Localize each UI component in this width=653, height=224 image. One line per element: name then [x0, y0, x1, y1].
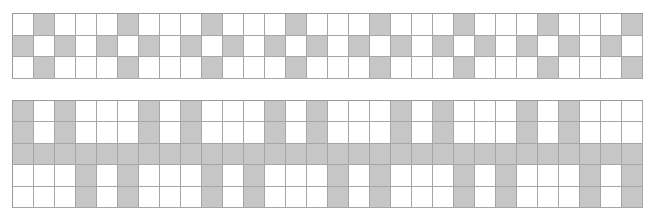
filled-cell: [34, 14, 55, 36]
empty-cell: [76, 57, 97, 79]
empty-cell: [139, 14, 160, 36]
empty-cell: [370, 36, 391, 58]
empty-cell: [307, 187, 328, 208]
empty-cell: [244, 57, 265, 79]
filled-cell: [433, 101, 454, 122]
empty-cell: [223, 101, 244, 122]
empty-cell: [391, 187, 412, 208]
filled-cell: [370, 57, 391, 79]
filled-cell: [433, 36, 454, 58]
empty-cell: [496, 101, 517, 122]
filled-cell: [475, 144, 496, 165]
empty-cell: [412, 36, 433, 58]
filled-cell: [622, 144, 643, 165]
filled-cell: [202, 57, 223, 79]
empty-cell: [118, 36, 139, 58]
empty-cell: [349, 57, 370, 79]
empty-cell: [475, 122, 496, 143]
empty-cell: [13, 187, 34, 208]
empty-cell: [517, 14, 538, 36]
empty-cell: [622, 122, 643, 143]
filled-cell: [559, 101, 580, 122]
filled-cell: [307, 122, 328, 143]
empty-cell: [244, 122, 265, 143]
filled-cell: [559, 122, 580, 143]
empty-cell: [286, 187, 307, 208]
empty-cell: [34, 101, 55, 122]
filled-cell: [286, 144, 307, 165]
filled-cell: [370, 144, 391, 165]
filled-cell: [55, 122, 76, 143]
weave-grid-bottom: [12, 100, 643, 208]
empty-cell: [496, 14, 517, 36]
empty-cell: [118, 101, 139, 122]
empty-cell: [580, 36, 601, 58]
empty-cell: [202, 101, 223, 122]
empty-cell: [328, 14, 349, 36]
filled-cell: [265, 144, 286, 165]
empty-cell: [223, 165, 244, 186]
filled-cell: [286, 57, 307, 79]
filled-cell: [13, 122, 34, 143]
empty-cell: [412, 122, 433, 143]
filled-cell: [433, 122, 454, 143]
empty-cell: [13, 57, 34, 79]
empty-cell: [160, 14, 181, 36]
filled-cell: [622, 165, 643, 186]
filled-cell: [370, 165, 391, 186]
filled-cell: [265, 122, 286, 143]
empty-cell: [580, 14, 601, 36]
filled-cell: [454, 144, 475, 165]
filled-cell: [118, 14, 139, 36]
empty-cell: [370, 101, 391, 122]
empty-cell: [622, 36, 643, 58]
empty-cell: [538, 101, 559, 122]
filled-cell: [601, 36, 622, 58]
empty-cell: [328, 36, 349, 58]
empty-cell: [580, 57, 601, 79]
empty-cell: [580, 101, 601, 122]
empty-cell: [349, 165, 370, 186]
empty-cell: [454, 122, 475, 143]
empty-cell: [559, 165, 580, 186]
empty-cell: [286, 101, 307, 122]
filled-cell: [328, 144, 349, 165]
empty-cell: [307, 57, 328, 79]
filled-cell: [517, 101, 538, 122]
filled-cell: [517, 36, 538, 58]
filled-cell: [202, 144, 223, 165]
empty-cell: [517, 57, 538, 79]
filled-cell: [412, 144, 433, 165]
filled-cell: [307, 101, 328, 122]
empty-cell: [517, 165, 538, 186]
empty-cell: [475, 101, 496, 122]
empty-cell: [265, 14, 286, 36]
filled-cell: [181, 144, 202, 165]
filled-cell: [202, 165, 223, 186]
empty-cell: [307, 165, 328, 186]
empty-cell: [55, 14, 76, 36]
filled-cell: [496, 144, 517, 165]
empty-cell: [97, 101, 118, 122]
empty-cell: [97, 165, 118, 186]
empty-cell: [160, 36, 181, 58]
filled-cell: [580, 187, 601, 208]
empty-cell: [181, 14, 202, 36]
empty-cell: [244, 101, 265, 122]
empty-cell: [139, 165, 160, 186]
empty-cell: [601, 57, 622, 79]
filled-cell: [391, 36, 412, 58]
empty-cell: [160, 187, 181, 208]
empty-cell: [139, 57, 160, 79]
empty-cell: [76, 122, 97, 143]
empty-cell: [160, 122, 181, 143]
filled-cell: [517, 122, 538, 143]
filled-cell: [349, 144, 370, 165]
filled-cell: [538, 14, 559, 36]
empty-cell: [55, 187, 76, 208]
filled-cell: [349, 36, 370, 58]
empty-cell: [286, 122, 307, 143]
empty-cell: [76, 14, 97, 36]
empty-cell: [349, 187, 370, 208]
empty-cell: [454, 101, 475, 122]
